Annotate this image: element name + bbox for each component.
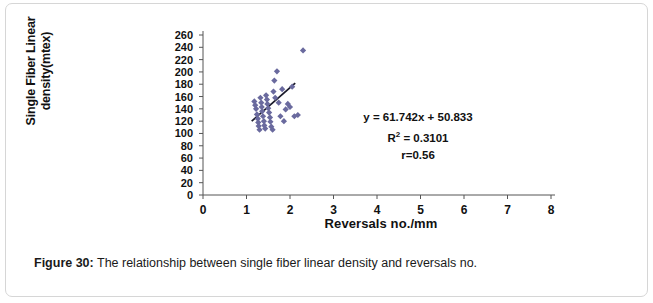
data-point-markers <box>251 47 306 133</box>
y-axis-title: Single Fiber Linear density(mtex) <box>24 0 54 159</box>
y-tick-140: 140 <box>151 104 193 114</box>
data-point <box>274 68 280 74</box>
x-tick-8: 8 <box>539 203 563 217</box>
data-point <box>266 109 272 115</box>
data-point <box>281 118 287 124</box>
y-tick-240: 240 <box>151 42 193 52</box>
x-tick-0: 0 <box>191 203 215 217</box>
figure-caption: Figure 30: The relationship between sing… <box>34 254 634 273</box>
data-point <box>270 89 276 95</box>
y-tick-260: 260 <box>151 30 193 40</box>
figure-frame: Single Fiber Linear density(mtex) 020406… <box>5 3 648 297</box>
y-tick-40: 40 <box>151 165 193 175</box>
data-point <box>279 86 285 92</box>
y-axis-title-line1: Single Fiber Linear <box>24 0 39 159</box>
x-tick-2: 2 <box>278 203 302 217</box>
y-tick-80: 80 <box>151 141 193 151</box>
figure-caption-text: The relationship between single fiber li… <box>94 256 477 270</box>
data-point <box>267 119 273 125</box>
data-point <box>300 47 306 53</box>
x-axis-title: Reversals no./mm <box>216 216 546 231</box>
correlation-value: r=0.56 <box>328 147 508 164</box>
regression-equation: y = 61.742x + 50.833 <box>328 109 508 126</box>
y-axis-title-line2: density(mtex) <box>39 0 54 159</box>
y-tick-160: 160 <box>151 92 193 102</box>
figure-caption-label: Figure 30: <box>34 256 94 270</box>
data-point <box>257 95 263 101</box>
scatter-chart: Single Fiber Linear density(mtex) 020406… <box>6 4 653 239</box>
r-squared-value: R2 = 0.3101 <box>328 126 508 147</box>
y-tick-200: 200 <box>151 67 193 77</box>
x-tick-5: 5 <box>409 203 433 217</box>
y-tick-120: 120 <box>151 116 193 126</box>
x-tick-1: 1 <box>235 203 259 217</box>
data-point <box>277 113 283 119</box>
data-point <box>271 77 277 83</box>
x-tick-7: 7 <box>496 203 520 217</box>
x-tick-4: 4 <box>365 203 389 217</box>
y-tick-0: 0 <box>151 190 193 200</box>
x-tick-3: 3 <box>322 203 346 217</box>
y-tick-220: 220 <box>151 55 193 65</box>
y-tick-20: 20 <box>151 178 193 188</box>
regression-annotation: y = 61.742x + 50.833 R2 = 0.3101 r=0.56 <box>328 109 508 164</box>
y-tick-60: 60 <box>151 153 193 163</box>
x-tick-6: 6 <box>452 203 476 217</box>
y-tick-100: 100 <box>151 128 193 138</box>
y-tick-180: 180 <box>151 79 193 89</box>
